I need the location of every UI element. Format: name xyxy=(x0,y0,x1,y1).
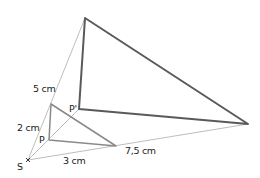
label-2cm: 2 cm xyxy=(17,122,39,133)
label-p: P xyxy=(39,134,45,145)
dilation-diagram: S P P' 2 cm 5 cm 3 cm 7,5 cm xyxy=(0,0,260,178)
label-3cm: 3 cm xyxy=(63,155,85,166)
label-5cm: 5 cm xyxy=(33,83,55,94)
label-s: S xyxy=(17,161,23,172)
large-triangle xyxy=(79,18,248,124)
label-p-prime: P' xyxy=(69,103,77,114)
label-7-5cm: 7,5 cm xyxy=(125,145,156,156)
